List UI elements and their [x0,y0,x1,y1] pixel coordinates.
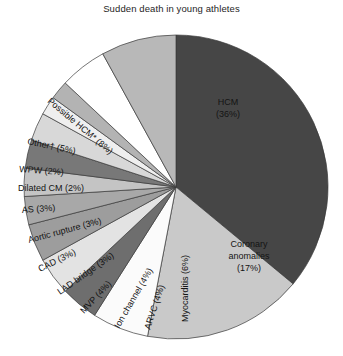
pie-chart-svg: HCM(36%)Coronaryanomalies(17%)Myocarditi… [0,0,343,356]
pie-slice-label: Myocarditis (6%) [180,255,190,322]
pie-slice-label: Dilated CM (2%) [18,183,84,193]
pie-chart-figure: Sudden death in young athletes HCM(36%)C… [0,0,343,356]
